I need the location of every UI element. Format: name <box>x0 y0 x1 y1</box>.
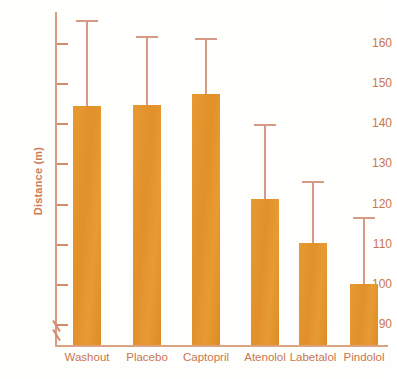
y-tick-label: 110 <box>350 238 392 250</box>
bar-captopril <box>192 94 220 345</box>
y-tick-110 <box>57 244 68 246</box>
y-tick-label: 140 <box>350 117 392 129</box>
error-bar-cap-washout <box>76 20 98 22</box>
bar-labetalol <box>299 243 327 345</box>
error-bar-cap-atenolol <box>254 124 276 126</box>
error-bar-stem-placebo <box>146 36 148 105</box>
bar-atenolol <box>251 199 279 345</box>
y-axis-label: Distance (m) <box>32 121 44 241</box>
error-bar-stem-washout <box>86 20 88 106</box>
y-tick-label: 130 <box>350 157 392 169</box>
y-axis-line <box>55 12 57 345</box>
error-bar-cap-captopril <box>195 38 217 40</box>
y-tick-90 <box>57 324 68 326</box>
bar-placebo <box>133 105 161 345</box>
y-tick-130 <box>57 163 68 165</box>
bar-washout <box>73 106 101 345</box>
y-tick-label: 150 <box>350 77 392 89</box>
error-bar-cap-pindolol <box>353 217 375 219</box>
y-tick-120 <box>57 204 68 206</box>
x-label-pindolol: Pindolol <box>329 352 397 364</box>
y-tick-label: 160 <box>350 37 392 49</box>
y-tick-140 <box>57 123 68 125</box>
error-bar-cap-placebo <box>136 36 158 38</box>
y-tick-150 <box>57 83 68 85</box>
x-axis-line <box>55 345 388 347</box>
error-bar-stem-atenolol <box>264 124 266 198</box>
error-bar-stem-pindolol <box>363 217 365 284</box>
y-tick-160 <box>57 43 68 45</box>
y-tick-label: 120 <box>350 198 392 210</box>
y-tick-100 <box>57 284 68 286</box>
error-bar-stem-captopril <box>205 38 207 94</box>
error-bar-cap-labetalol <box>302 181 324 183</box>
bar-pindolol <box>350 284 378 345</box>
error-bar-stem-labetalol <box>312 181 314 244</box>
